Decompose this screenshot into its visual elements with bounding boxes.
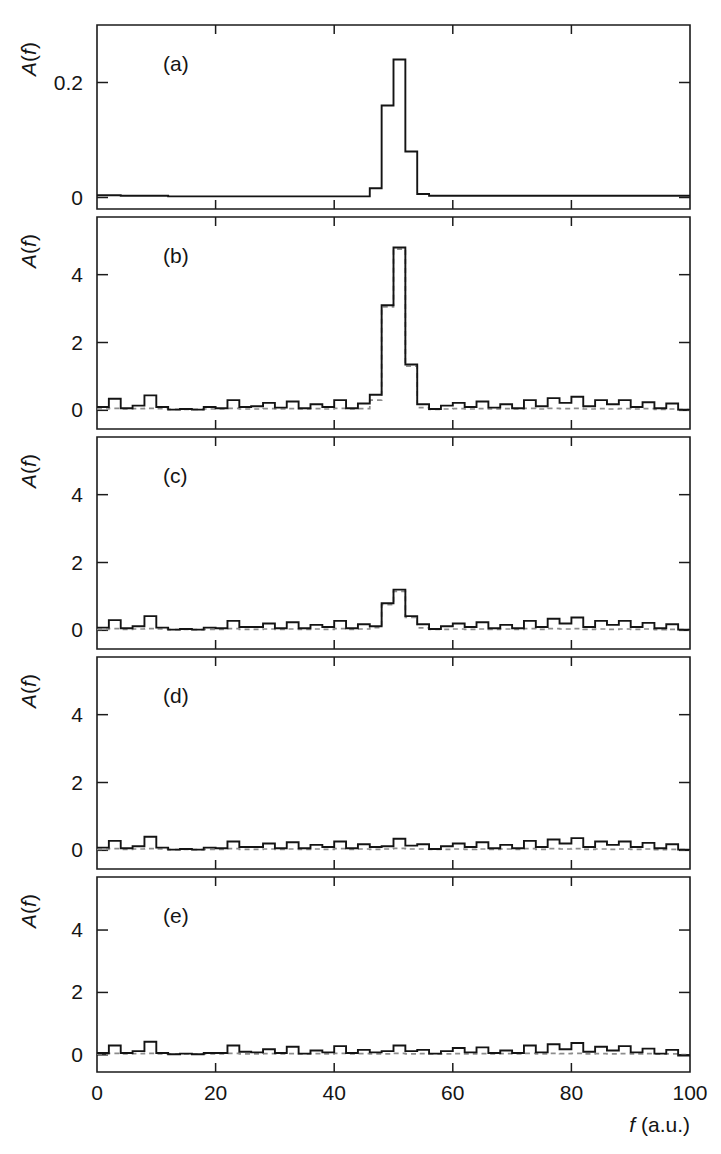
x-axis-title: f (a.u.) <box>629 1113 690 1136</box>
panel-a: 00.2A(f)(a) <box>17 25 690 209</box>
panel-label: (c) <box>163 464 188 487</box>
y-tick-label: 4 <box>71 918 83 941</box>
y-axis-title-paren-close: ) <box>17 674 40 681</box>
y-tick-label: 0 <box>71 186 83 209</box>
panel-label: (a) <box>163 52 189 75</box>
y-axis-title: A(f) <box>17 454 40 490</box>
y-axis-title-A: A <box>17 62 40 78</box>
y-axis-title: A(f) <box>17 894 40 930</box>
y-tick-label: 2 <box>71 980 83 1003</box>
y-axis-title: A(f) <box>17 674 40 710</box>
y-axis-title: A(f) <box>17 42 40 78</box>
y-axis-title-paren-close: ) <box>17 894 40 901</box>
y-tick-label: 4 <box>71 703 83 726</box>
data-series-solid <box>97 248 690 410</box>
panel-e: 024A(f)(e) <box>17 877 690 1072</box>
y-axis-title-paren: ( <box>17 247 40 254</box>
y-tick-label: 2 <box>71 551 83 574</box>
y-tick-label: 0 <box>71 398 83 421</box>
y-axis-title-paren-close: ) <box>17 234 40 241</box>
x-tick-label: 20 <box>204 1081 227 1104</box>
x-tick-label: 80 <box>560 1081 583 1104</box>
data-series-solid <box>97 590 690 630</box>
y-axis-title-A: A <box>17 694 40 710</box>
x-tick-label: 100 <box>672 1081 707 1104</box>
panel-d: 024A(f)(d) <box>17 657 690 869</box>
y-axis-title: A(f) <box>17 234 40 270</box>
y-axis-title-A: A <box>17 914 40 930</box>
y-axis-title-A: A <box>17 254 40 270</box>
y-tick-label: 2 <box>71 331 83 354</box>
y-axis-title-A: A <box>17 474 40 490</box>
x-tick-label: 0 <box>91 1081 103 1104</box>
x-axis-title-units: (a.u.) <box>635 1113 690 1136</box>
y-axis-title-paren: ( <box>17 55 40 62</box>
y-tick-label: 4 <box>71 263 83 286</box>
data-series-solid <box>97 60 690 197</box>
y-tick-label: 0 <box>71 618 83 641</box>
x-tick-label: 60 <box>441 1081 464 1104</box>
y-tick-label: 0.2 <box>54 71 83 94</box>
panel-c: 024A(f)(c) <box>17 437 690 649</box>
y-tick-label: 0 <box>71 1043 83 1066</box>
y-tick-label: 4 <box>71 483 83 506</box>
y-tick-label: 0 <box>71 838 83 861</box>
panel-b: 024A(f)(b) <box>17 217 690 429</box>
x-tick-label: 40 <box>323 1081 346 1104</box>
y-axis-title-paren: ( <box>17 467 40 474</box>
multi-panel-spectrum-figure: 00.2A(f)(a)024A(f)(b)024A(f)(c)024A(f)(d… <box>0 0 721 1154</box>
panel-label: (d) <box>163 684 189 707</box>
figure-root: 00.2A(f)(a)024A(f)(b)024A(f)(c)024A(f)(d… <box>0 0 721 1154</box>
y-axis-title-paren-close: ) <box>17 42 40 49</box>
data-series-solid <box>97 1042 690 1056</box>
panel-label: (b) <box>163 244 189 267</box>
y-axis-title-paren-close: ) <box>17 454 40 461</box>
y-axis-title-paren: ( <box>17 907 40 914</box>
y-tick-label: 2 <box>71 771 83 794</box>
y-axis-title-paren: ( <box>17 687 40 694</box>
panel-label: (e) <box>163 904 189 927</box>
